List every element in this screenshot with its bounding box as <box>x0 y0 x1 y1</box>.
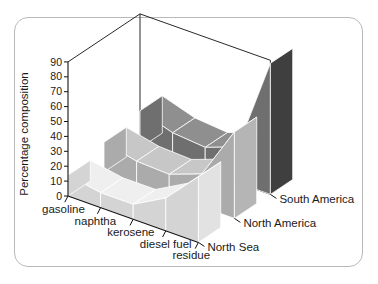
x-category-label: diesel fuel <box>140 238 192 250</box>
y-tick-label: 20 <box>50 160 62 172</box>
y-tick-label: 80 <box>50 70 62 82</box>
surface-ribbons <box>68 48 293 242</box>
y-axis-ticks <box>64 62 68 196</box>
y-tick-labels: 0102030405060708090 <box>50 56 62 202</box>
y-tick-label: 60 <box>50 100 62 112</box>
series-label: North America <box>243 217 316 229</box>
y-tick-label: 70 <box>50 85 62 97</box>
y-tick-label: 0 <box>56 190 62 202</box>
y-tick-label: 30 <box>50 145 62 157</box>
x-category-label: gasoline <box>42 203 85 215</box>
x-category-label: naphtha <box>75 215 117 227</box>
y-tick-label: 40 <box>50 130 62 142</box>
x-category-label: residue <box>172 249 210 261</box>
x-category-label: kerosene <box>107 226 154 238</box>
series-label: South America <box>279 193 354 205</box>
series-label: North Sea <box>207 241 259 253</box>
y-tick-label: 50 <box>50 115 62 127</box>
figure-container: Percentage composition 01020304050607080… <box>0 0 378 284</box>
y-tick-label: 10 <box>50 175 62 187</box>
surface-chart-3d: 0102030405060708090 gasolinenaphthakeros… <box>0 0 378 284</box>
y-tick-label: 90 <box>50 56 62 68</box>
